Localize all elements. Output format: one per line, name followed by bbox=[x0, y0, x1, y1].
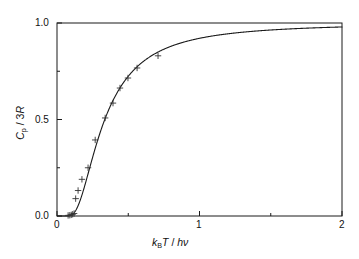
data-point-marker bbox=[68, 212, 74, 218]
x-tick-label-1: 1 bbox=[196, 219, 202, 230]
x-label-slash: / bbox=[168, 236, 177, 248]
y-axis-label: Cp / 3R bbox=[14, 93, 28, 153]
x-tick-label-0: 0 bbox=[54, 219, 60, 230]
plot-frame-rect bbox=[57, 23, 342, 216]
y-tick-label-0.0: 0.0 bbox=[35, 210, 49, 221]
data-point-marker bbox=[134, 65, 140, 71]
data-point-marker bbox=[75, 187, 81, 193]
data-point-marker bbox=[79, 176, 85, 182]
axis-tick-marks bbox=[57, 23, 342, 216]
x-tick-label-2: 2 bbox=[339, 219, 345, 230]
data-point-markers bbox=[65, 53, 161, 219]
y-label-R: R bbox=[14, 106, 26, 114]
einstein-curve-path bbox=[57, 27, 342, 216]
data-point-marker bbox=[117, 85, 123, 91]
chart-figure: 1.0 0.5 0.0 0 1 2 Cp / 3R kBT / hν bbox=[0, 0, 359, 259]
x-axis-label: kBT / hν bbox=[152, 236, 188, 250]
data-point-marker bbox=[102, 115, 108, 121]
model-curve bbox=[57, 27, 342, 216]
y-label-C: C bbox=[14, 132, 26, 140]
y-label-subscript-p: p bbox=[19, 128, 28, 132]
y-tick-label-0.5: 0.5 bbox=[35, 114, 49, 125]
data-point-marker bbox=[72, 195, 78, 201]
y-tick-label-1.0: 1.0 bbox=[35, 17, 49, 28]
y-axis-label-container: Cp / 3R bbox=[13, 96, 27, 156]
x-label-nu: ν bbox=[183, 236, 188, 248]
axes-frame bbox=[57, 23, 342, 216]
y-label-slash3: / 3 bbox=[14, 114, 26, 129]
